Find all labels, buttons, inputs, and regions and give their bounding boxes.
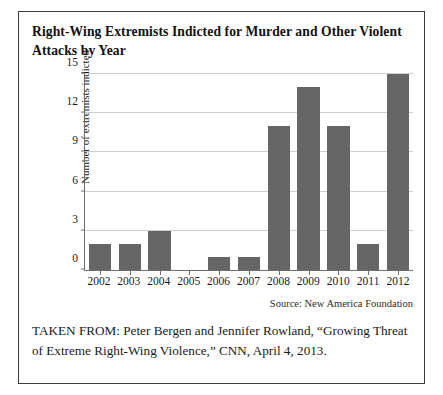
x-axis-tick-label: 2007 (234, 275, 264, 287)
bar-slot (234, 74, 264, 270)
x-axis-tick-label: 2003 (114, 275, 144, 287)
bar-slot (145, 74, 175, 270)
x-axis-tick-label: 2008 (263, 275, 293, 287)
figure-container: Right-Wing Extremists Indicted for Murde… (18, 11, 425, 384)
x-axis-tick-label: 2011 (353, 275, 383, 287)
chart: Number of extremists indicted 03691215 2… (32, 70, 413, 305)
bar (357, 244, 379, 270)
x-axis-tick-label: 2012 (383, 275, 413, 287)
y-axis-tick-label: 3 (72, 213, 78, 225)
bar-slot (115, 74, 145, 270)
x-axis-tick-label: 2010 (323, 275, 353, 287)
bar-slot (204, 74, 234, 270)
y-axis-tick-label: 15 (67, 56, 79, 68)
plot-area: 03691215 (84, 74, 413, 271)
x-axis-tick-labels: 2002200320042005200620072008200920102011… (84, 275, 413, 287)
y-axis-tick-label: 9 (72, 134, 78, 146)
bar (268, 126, 290, 270)
bar (148, 231, 170, 270)
x-axis-tick-label: 2005 (174, 275, 204, 287)
bar-slot (294, 74, 324, 270)
bar (89, 244, 111, 270)
bar-slot (353, 74, 383, 270)
x-axis-tick-label: 2006 (204, 275, 234, 287)
y-axis-tick-label: 12 (67, 95, 79, 107)
y-axis-tick-label: 6 (72, 174, 78, 186)
x-axis-tick-label: 2002 (84, 275, 114, 287)
y-axis-tick-label: 0 (72, 252, 78, 264)
bar-slot (324, 74, 354, 270)
bar (208, 257, 230, 270)
x-axis-tick-label: 2004 (144, 275, 174, 287)
bar (119, 244, 141, 270)
figure-caption: TAKEN FROM: Peter Bergen and Jennifer Ro… (32, 321, 410, 360)
bar-series (85, 74, 413, 270)
bar-slot (174, 74, 204, 270)
bar (327, 126, 349, 270)
bar-slot (85, 74, 115, 270)
bar (238, 257, 260, 270)
bar (387, 74, 409, 270)
source-note: Source: New America Foundation (270, 298, 413, 309)
bar-slot (383, 74, 413, 270)
x-axis-tick-label: 2009 (293, 275, 323, 287)
bar (297, 87, 319, 270)
bar-slot (264, 74, 294, 270)
